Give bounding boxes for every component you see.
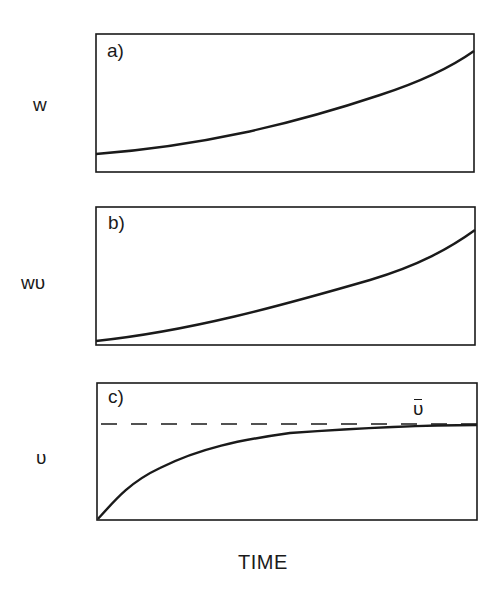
panel-a-frame (96, 34, 474, 172)
panel-b-curve (96, 230, 475, 341)
x-axis-label: TIME (238, 551, 288, 574)
panel-a-label: a) (107, 40, 124, 62)
panel-b-label: b) (108, 212, 125, 234)
panel-b-ylabel: wυ (21, 272, 45, 294)
overbar (414, 399, 422, 400)
panel-b-frame (96, 207, 475, 345)
asymptote-symbol: υ (413, 398, 423, 419)
plot-canvas (0, 0, 499, 590)
panel-c-asymptote-label: υ (413, 398, 423, 420)
panel-c-curve (98, 425, 477, 519)
panel-c-ylabel: υ (36, 447, 46, 469)
panel-c-label: c) (108, 386, 124, 408)
panel-a-ylabel: w (33, 94, 47, 116)
panel-a-curve (96, 51, 474, 154)
